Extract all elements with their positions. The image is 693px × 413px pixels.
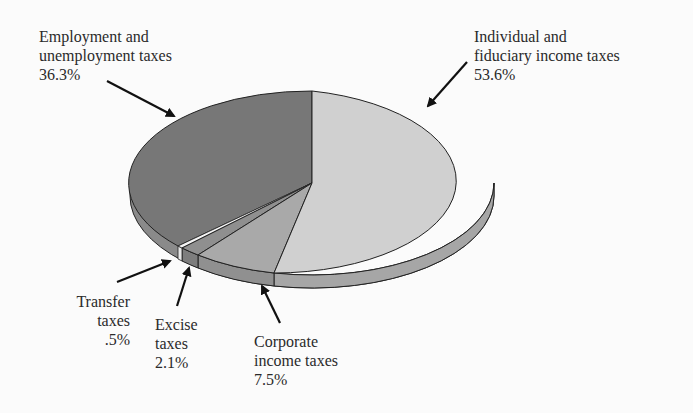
pie-top [129,91,457,273]
arrow-corporate [262,286,280,323]
arrow-employment [107,81,174,116]
label-excise: Excise taxes 2.1% [155,315,198,372]
arrow-excise [177,268,189,306]
label-corporate-line1: Corporate [254,332,338,351]
arrow-individual [428,62,467,106]
label-corporate-value: 7.5% [254,370,338,389]
label-individual-value: 53.6% [474,65,620,84]
label-employment-line1: Employment and [39,27,172,46]
label-employment: Employment and unemployment taxes 36.3% [39,27,172,84]
arrow-transfer [117,261,170,282]
label-corporate: Corporate income taxes 7.5% [254,332,338,389]
label-employment-line2: unemployment taxes [39,46,172,65]
label-individual-line2: fiduciary income taxes [474,46,620,65]
label-excise-value: 2.1% [155,353,198,372]
label-transfer-line1: Transfer [50,292,130,311]
label-transfer: Transfer taxes .5% [50,292,130,349]
label-employment-value: 36.3% [39,65,172,84]
label-excise-line2: taxes [155,334,198,353]
label-excise-line1: Excise [155,315,198,334]
label-individual: Individual and fiduciary income taxes 53… [474,27,620,84]
label-individual-line1: Individual and [474,27,620,46]
label-transfer-line2: taxes [50,311,130,330]
label-corporate-line2: income taxes [254,351,338,370]
label-transfer-value: .5% [50,330,130,349]
